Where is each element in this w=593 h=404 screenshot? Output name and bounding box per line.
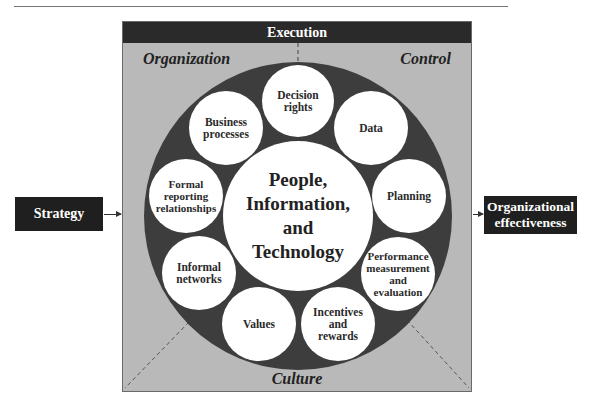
effectiveness-arrow-icon: [473, 214, 483, 215]
culture-label: Culture: [123, 370, 471, 388]
organizational-effectiveness-box: Organizational effectiveness: [484, 196, 577, 234]
execution-header: Execution: [123, 22, 471, 43]
organizational-effectiveness-label: Organizational effectiveness: [487, 199, 574, 231]
framework-frame: Execution Organization Control Culture P…: [122, 21, 472, 392]
strategy-label: Strategy: [34, 206, 85, 222]
execution-label: Execution: [267, 25, 327, 40]
node-label-planning: Planning: [372, 159, 446, 233]
node-label-formal-reporting: Formal reporting relationships: [147, 159, 225, 233]
node-label-decision-rights: Decision rights: [262, 65, 334, 137]
node-label-data: Data: [334, 91, 408, 165]
strategy-box: Strategy: [15, 197, 103, 231]
control-label: Control: [400, 50, 451, 68]
page-header-rule: [14, 6, 508, 7]
node-label-incentives: Incentives and rewards: [301, 287, 375, 361]
node-label-informal-networks: Informal networks: [162, 236, 236, 310]
node-label-business-processes: Business processes: [189, 91, 263, 165]
organization-label: Organization: [143, 50, 230, 68]
strategy-arrow-icon: [104, 214, 121, 215]
